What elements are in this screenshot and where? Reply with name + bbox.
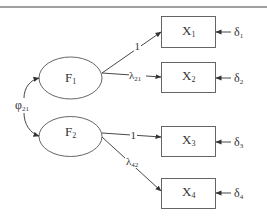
cfa-diagram: F1 F2 X1 X2 X3 X4 1 λ21 1 λ42 (0, 0, 267, 218)
svg-text:1: 1 (131, 129, 137, 141)
svg-text:δ4: δ4 (234, 186, 244, 201)
indicator-x2: X2 (162, 63, 216, 93)
svg-text:F1: F1 (65, 70, 76, 86)
svg-text:F2: F2 (65, 124, 76, 140)
svg-text:X1: X1 (182, 23, 195, 39)
svg-text:φ21: φ21 (15, 98, 29, 113)
covariance-f1-f2: φ21 (15, 78, 39, 136)
indicator-x3: X3 (162, 127, 216, 157)
error-d1: δ1 (216, 25, 244, 40)
error-d2: δ2 (216, 71, 244, 86)
svg-text:1: 1 (135, 40, 141, 52)
loading-f1-x1: 1 (102, 32, 161, 73)
loading-f1-x2: λ21 (102, 69, 161, 83)
indicator-x1: X1 (162, 17, 216, 48)
factor-f1: F1 (39, 57, 102, 99)
error-d4: δ4 (216, 186, 244, 201)
svg-text:X4: X4 (182, 184, 195, 200)
factor-f2: F2 (39, 117, 102, 157)
svg-text:δ2: δ2 (234, 71, 244, 86)
indicator-x4: X4 (162, 179, 216, 209)
loading-f2-x4: λ42 (102, 137, 161, 191)
svg-text:X3: X3 (182, 132, 195, 148)
svg-text:δ3: δ3 (234, 135, 244, 150)
loading-f2-x3: 1 (102, 129, 161, 141)
error-d3: δ3 (216, 135, 244, 150)
svg-text:X2: X2 (182, 68, 195, 84)
svg-text:δ1: δ1 (234, 25, 244, 40)
